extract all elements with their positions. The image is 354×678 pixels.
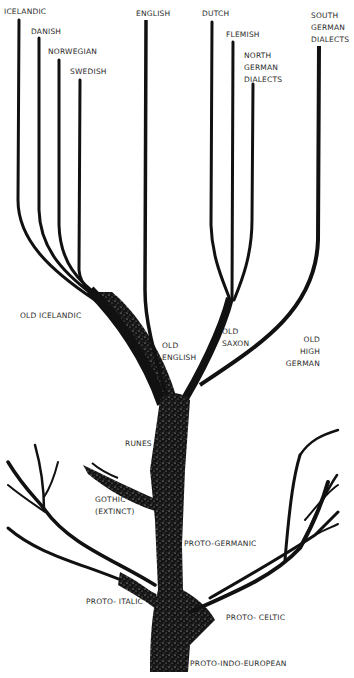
label-proto-celtic: PROTO- CELTIC bbox=[226, 612, 285, 624]
proto-celtic-branches bbox=[190, 430, 338, 612]
label-english: ENGLISH bbox=[136, 8, 170, 20]
label-flemish: FLEMISH bbox=[226, 29, 260, 41]
label-north-german-dialects: NORTH GERMAN DIALECTS bbox=[244, 50, 282, 86]
label-old-high-german: OLD HIGH GERMAN bbox=[280, 334, 320, 370]
label-runes: RUNES bbox=[125, 438, 152, 450]
trunk bbox=[150, 393, 215, 672]
label-old-saxon: OLD SAXON bbox=[222, 326, 249, 350]
label-south-german-dialects: SOUTH GERMAN DIALECTS bbox=[311, 10, 349, 46]
label-old-icelandic: OLD ICELANDIC bbox=[20, 310, 81, 322]
label-proto-germanic: PROTO-GERMANIC bbox=[184, 538, 257, 550]
label-gothic: GOTHIC (EXTINCT) bbox=[95, 494, 135, 518]
label-swedish: SWEDISH bbox=[70, 66, 107, 78]
proto-italic-branches bbox=[8, 445, 155, 595]
north-germanic-branches bbox=[18, 20, 108, 305]
label-old-english: OLD ENGLISH bbox=[162, 340, 196, 364]
label-icelandic: ICELANDIC bbox=[4, 6, 46, 18]
label-proto-italic: PROTO- ITALIC bbox=[86, 596, 143, 608]
label-danish: DANISH bbox=[31, 26, 61, 38]
label-dutch: DUTCH bbox=[202, 8, 229, 20]
label-proto-indo-european: PROTO-INDO-EUROPEAN bbox=[190, 658, 287, 670]
language-tree-diagram: ICELANDIC DANISH NORWEGIAN SWEDISH ENGLI… bbox=[0, 0, 354, 678]
label-norwegian: NORWEGIAN bbox=[48, 46, 97, 58]
